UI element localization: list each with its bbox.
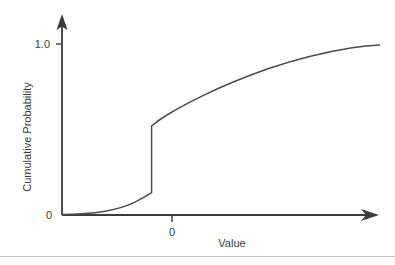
y-tick-label-top: 1.0	[35, 38, 50, 50]
cdf-curve	[62, 45, 380, 215]
cdf-figure: 1.0 0 0 Value Cumulative Probability	[0, 0, 395, 265]
x-axis-title: Value	[218, 237, 245, 249]
x-tick-label-zero: 0	[169, 226, 175, 238]
footer-divider	[0, 256, 395, 257]
y-axis-title: Cumulative Probability	[21, 82, 33, 192]
plot-canvas: 1.0 0 0 Value Cumulative Probability	[0, 0, 395, 265]
y-tick-label-zero: 0	[46, 209, 52, 221]
